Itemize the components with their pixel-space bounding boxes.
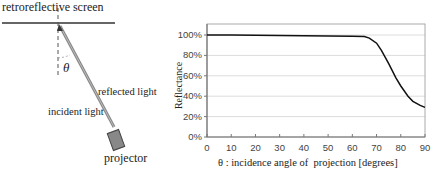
y-tick-label: 20% bbox=[166, 111, 202, 122]
x-tick-label: 80 bbox=[391, 142, 411, 153]
projector-label: projector bbox=[104, 151, 147, 166]
x-axis-label: θ : incidence angle of projection [degre… bbox=[218, 157, 398, 168]
x-tick-label: 30 bbox=[270, 142, 290, 153]
x-tick-label: 60 bbox=[342, 142, 362, 153]
y-axis-label: Reflectance bbox=[173, 56, 184, 116]
x-tick-label: 70 bbox=[367, 142, 387, 153]
chart-gridlines bbox=[207, 35, 425, 117]
y-tick-label: 40% bbox=[166, 90, 202, 101]
x-tick-label: 10 bbox=[221, 142, 241, 153]
x-tick-label: 50 bbox=[318, 142, 338, 153]
screen-label: retroreflective screen bbox=[2, 0, 104, 15]
projector-icon bbox=[107, 129, 124, 150]
angle-arc bbox=[58, 55, 70, 58]
plot-area-border bbox=[207, 24, 425, 137]
y-tick-label: 100% bbox=[166, 29, 202, 40]
y-tick-label: 80% bbox=[166, 49, 202, 60]
x-tick-label: 20 bbox=[245, 142, 265, 153]
x-tick-label: 90 bbox=[415, 142, 435, 153]
x-tick-label: 0 bbox=[197, 142, 217, 153]
y-tick-label: 0% bbox=[166, 131, 202, 142]
incident-light-label: incident light bbox=[48, 106, 104, 117]
y-tick-label: 60% bbox=[166, 70, 202, 81]
reflected-light-label: reflected light bbox=[98, 86, 157, 97]
x-tick-label: 40 bbox=[294, 142, 314, 153]
theta-label: θ bbox=[63, 60, 69, 76]
